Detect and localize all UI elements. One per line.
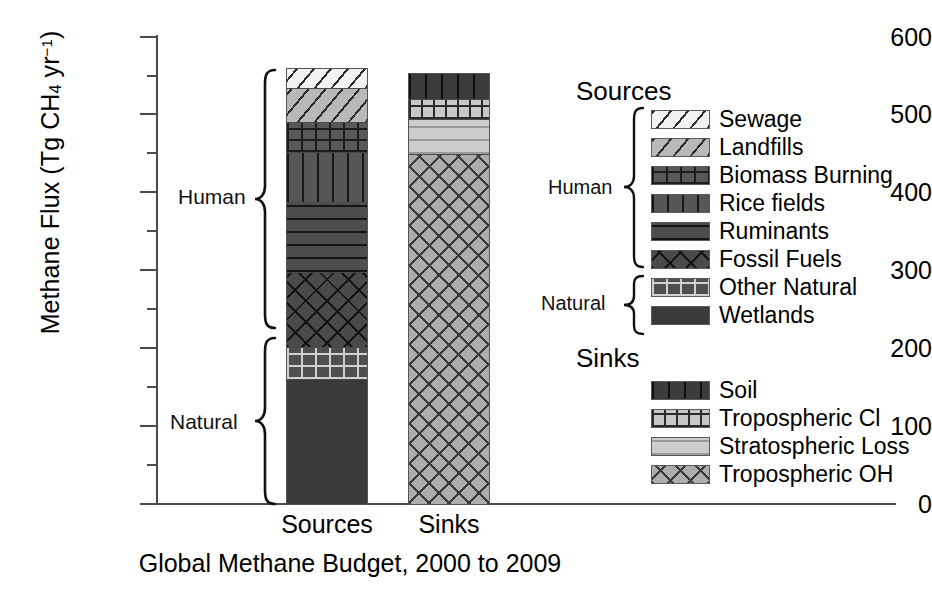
y-tick-minor-450 bbox=[147, 152, 157, 154]
legend-label-tropospheric-cl: Tropospheric Cl bbox=[719, 405, 880, 432]
legend-label-fossil-fuels: Fossil Fuels bbox=[719, 246, 842, 273]
y-axis-title-sub: 4 bbox=[47, 84, 64, 93]
legend-heading-sinks: Sinks bbox=[576, 343, 640, 374]
chart-title: Global Methane Budget, 2000 to 2009 bbox=[0, 549, 700, 578]
legend-label-tropospheric-oh: Tropospheric OH bbox=[719, 461, 893, 488]
brace-natural-legend-label: Natural bbox=[541, 292, 605, 315]
legend-heading-sources: Sources bbox=[576, 76, 671, 107]
legend-swatch-fossil-fuels bbox=[651, 250, 710, 269]
y-tick-400 bbox=[140, 191, 157, 193]
y-tick-minor-50 bbox=[147, 464, 157, 466]
bar-segment-biomass-burning[interactable] bbox=[287, 122, 367, 152]
y-axis-label-300: 300 bbox=[850, 256, 932, 285]
y-axis-title: Methane Flux (Tg CH4 yr−1) bbox=[36, 0, 65, 393]
y-tick-300 bbox=[140, 269, 157, 271]
legend-swatch-tropospheric-oh bbox=[651, 465, 710, 484]
bar-segment-ruminants[interactable] bbox=[287, 202, 367, 272]
y-axis-title-sup: −1 bbox=[38, 39, 55, 56]
bar-segment-wetlands[interactable] bbox=[287, 379, 367, 504]
legend-swatch-other-natural bbox=[651, 278, 710, 297]
legend-swatch-landfills bbox=[651, 138, 710, 157]
bar-segment-rice-fields[interactable] bbox=[287, 152, 367, 202]
y-axis-label-600: 600 bbox=[850, 23, 932, 52]
legend-label-wetlands: Wetlands bbox=[719, 302, 814, 329]
bar-segment-stratospheric-loss[interactable] bbox=[409, 119, 489, 154]
legend-label-other-natural: Other Natural bbox=[719, 274, 857, 301]
y-tick-500 bbox=[140, 113, 157, 115]
legend-swatch-biomass-burning bbox=[651, 166, 710, 185]
y-axis-label-200: 200 bbox=[850, 334, 932, 363]
y-tick-minor-150 bbox=[147, 386, 157, 388]
legend-swatch-soil bbox=[651, 381, 710, 400]
bar-segment-other-natural[interactable] bbox=[287, 347, 367, 379]
y-tick-0 bbox=[140, 503, 157, 505]
y-tick-200 bbox=[140, 347, 157, 349]
legend-swatch-tropospheric-cl bbox=[651, 409, 710, 428]
y-axis-title-mid: yr bbox=[36, 56, 64, 84]
brace-human-legend bbox=[622, 106, 646, 269]
y-tick-minor-350 bbox=[147, 230, 157, 232]
legend-swatch-stratospheric-loss bbox=[651, 437, 710, 456]
legend-label-stratospheric-loss: Stratospheric Loss bbox=[719, 433, 909, 460]
y-axis-label-0: 0 bbox=[850, 490, 932, 519]
y-axis-title-pre: Methane Flux (Tg CH bbox=[36, 93, 64, 334]
bar-segment-tropospheric-cl[interactable] bbox=[409, 99, 489, 119]
y-tick-600 bbox=[140, 36, 157, 38]
legend-label-landfills: Landfills bbox=[719, 134, 803, 161]
y-tick-minor-550 bbox=[147, 75, 157, 77]
bar-sources[interactable] bbox=[287, 69, 367, 504]
legend-label-rice-fields: Rice fields bbox=[719, 190, 825, 217]
bar-segment-tropospheric-oh[interactable] bbox=[409, 154, 489, 504]
brace-natural-plot bbox=[252, 336, 278, 506]
legend-label-sewage: Sewage bbox=[719, 106, 802, 133]
legend-label-soil: Soil bbox=[719, 377, 757, 404]
bar-segment-fossil-fuels[interactable] bbox=[287, 272, 367, 347]
bar-sinks[interactable] bbox=[409, 74, 489, 504]
brace-natural-plot-label: Natural bbox=[170, 410, 238, 434]
y-axis-label-500: 500 bbox=[850, 100, 932, 129]
y-axis-title-post: ) bbox=[36, 31, 64, 39]
bar-segment-sewage[interactable] bbox=[287, 69, 367, 88]
bar-segment-landfills[interactable] bbox=[287, 88, 367, 122]
brace-natural-legend bbox=[622, 274, 646, 336]
legend-swatch-rice-fields bbox=[651, 194, 710, 213]
x-axis-label-sinks: Sinks bbox=[379, 510, 519, 539]
legend-swatch-sewage bbox=[651, 110, 710, 129]
legend-swatch-wetlands bbox=[651, 306, 710, 325]
chart-figure: Methane Flux (Tg CH4 yr−1) 600 500 400 3… bbox=[0, 0, 932, 600]
brace-human-legend-label: Human bbox=[548, 176, 612, 199]
y-tick-minor-250 bbox=[147, 308, 157, 310]
y-tick-100 bbox=[140, 425, 157, 427]
legend-label-ruminants: Ruminants bbox=[719, 218, 829, 245]
brace-human-plot bbox=[252, 68, 278, 330]
legend-label-biomass-burning: Biomass Burning bbox=[719, 162, 893, 189]
legend-swatch-ruminants bbox=[651, 222, 710, 241]
bar-segment-soil[interactable] bbox=[409, 74, 489, 99]
brace-human-plot-label: Human bbox=[178, 185, 246, 209]
